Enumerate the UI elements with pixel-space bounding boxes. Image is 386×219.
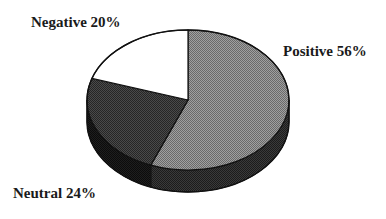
label-positive: Positive 56% <box>283 44 367 59</box>
label-neutral: Neutral 24% <box>13 186 96 201</box>
label-negative: Negative 20% <box>31 15 121 30</box>
